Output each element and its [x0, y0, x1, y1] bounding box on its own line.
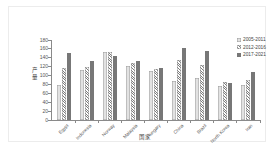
x-axis-tick — [144, 120, 145, 123]
bar — [154, 69, 158, 120]
y-axis-tick — [48, 120, 52, 121]
legend-label: 2017-2021 — [243, 52, 266, 57]
x-axis-tick — [98, 120, 99, 123]
bar — [136, 61, 140, 120]
y-axis-tick — [48, 57, 52, 58]
legend-item: 2017-2021 — [237, 52, 266, 57]
bar — [126, 66, 130, 120]
y-axis-tick — [48, 66, 52, 67]
bar — [177, 60, 181, 120]
y-axis-tick-label: 20 — [26, 109, 48, 114]
y-axis-tick — [48, 40, 52, 41]
legend-label: 2012-2016 — [243, 45, 266, 50]
x-category-label: China — [173, 123, 185, 135]
y-axis-tick — [48, 84, 52, 85]
x-category-label: Brazil — [196, 123, 208, 135]
x-axis-tick — [260, 120, 261, 123]
legend-item: 2005-2011 — [237, 37, 266, 42]
y-axis-title: 产量 — [31, 67, 39, 81]
bar — [246, 80, 250, 120]
bar — [251, 72, 255, 120]
bar — [113, 56, 117, 120]
bar — [200, 65, 204, 120]
x-axis-tick — [121, 120, 122, 123]
y-axis-tick — [48, 102, 52, 103]
x-axis-tick — [75, 120, 76, 123]
bar — [228, 83, 232, 120]
x-axis-title: 国家 — [139, 133, 151, 141]
y-axis-tick-label: 60 — [26, 91, 48, 96]
x-axis-tick — [236, 120, 237, 123]
bar — [90, 61, 94, 120]
x-axis-tick — [213, 120, 214, 123]
bar — [62, 68, 66, 120]
bar — [67, 53, 71, 120]
x-category-label: Egypt — [57, 123, 69, 135]
x-category-label: Iran — [245, 123, 254, 132]
bar — [149, 71, 153, 120]
x-category-label: Indonesia — [75, 123, 93, 141]
plot-area: 020406080100120140160180EgyptIndonesiaNo… — [51, 40, 260, 121]
legend-swatch — [237, 45, 241, 49]
chart-panel: 020406080100120140160180EgyptIndonesiaNo… — [8, 6, 266, 142]
x-category-label: Norway — [101, 123, 116, 138]
bar — [80, 70, 84, 120]
x-category-label: North Korea — [210, 123, 231, 144]
bar — [85, 67, 89, 120]
legend-swatch — [237, 38, 241, 42]
legend: 2005-20112012-20162017-2021 — [237, 37, 266, 60]
legend-label: 2005-2011 — [243, 37, 266, 42]
bar — [172, 81, 176, 120]
bar — [223, 82, 227, 120]
bar — [182, 48, 186, 120]
y-axis-tick — [48, 75, 52, 76]
bar — [195, 78, 199, 120]
y-axis-tick-label: 140 — [26, 55, 48, 60]
y-axis-tick-label: 80 — [26, 82, 48, 87]
y-axis-tick — [48, 111, 52, 112]
bar — [159, 68, 163, 120]
x-axis-tick — [190, 120, 191, 123]
bar — [218, 86, 222, 120]
y-axis-tick-label: 160 — [26, 46, 48, 51]
x-category-label: Malaysia — [122, 123, 138, 139]
bar — [103, 52, 107, 120]
legend-swatch — [237, 53, 241, 57]
bar — [57, 85, 61, 120]
bar — [108, 52, 112, 120]
x-axis-tick — [167, 120, 168, 123]
y-axis-tick — [48, 48, 52, 49]
y-axis-tick-label: 0 — [26, 118, 48, 123]
bar — [241, 85, 245, 120]
legend-item: 2012-2016 — [237, 45, 266, 50]
y-axis-tick-label: 180 — [26, 38, 48, 43]
y-axis-tick-label: 40 — [26, 100, 48, 105]
bar — [205, 51, 209, 120]
bar — [131, 63, 135, 120]
y-axis-tick — [48, 93, 52, 94]
